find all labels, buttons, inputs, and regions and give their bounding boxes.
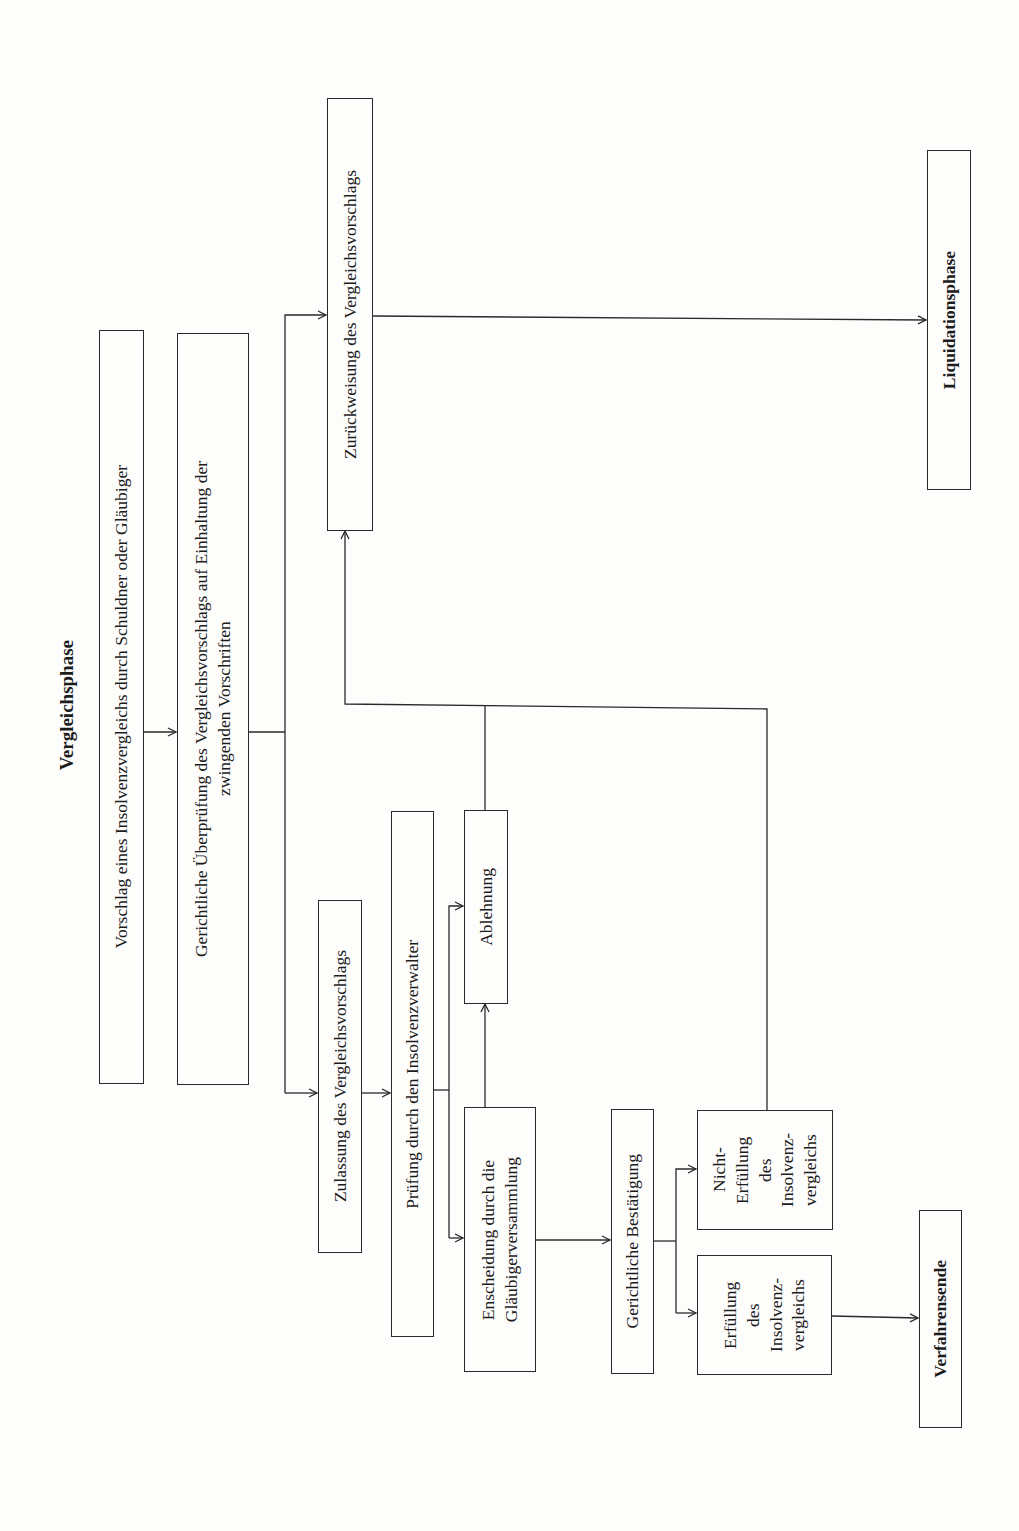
node-zurueckweisung: Zurückweisung des Vergleichsvorschlags bbox=[327, 98, 373, 531]
edge-bestaetigung-nichterfuellung bbox=[676, 1169, 696, 1313]
node-ueberpruefung: Gerichtliche Überprüfung des Vergleichsv… bbox=[177, 333, 249, 1085]
edge-erfuellung-verfahrensende bbox=[832, 1316, 918, 1318]
title-text: Vergleichsphase bbox=[55, 640, 80, 770]
node-label: Erfüllung des Insolvenz- vergleichs bbox=[719, 1278, 810, 1352]
node-verfahrensende: Verfahrensende bbox=[919, 1210, 962, 1428]
edge-zurueckweisung-liquidationsphase bbox=[373, 316, 926, 320]
node-label: Gerichtliche Überprüfung des Vergleichsv… bbox=[190, 461, 236, 957]
node-liquidationsphase: Liquidationsphase bbox=[927, 150, 971, 490]
node-label: Zulassung des Vergleichsvorschlags bbox=[329, 950, 352, 1202]
node-zulassung: Zulassung des Vergleichsvorschlags bbox=[318, 900, 362, 1253]
node-label: Prüfung durch den Insolvenzverwalter bbox=[401, 940, 424, 1209]
node-label: Gerichtliche Bestätigung bbox=[621, 1154, 644, 1328]
node-label: Vorschlag eines Insolvenzvergleichs durc… bbox=[110, 465, 133, 948]
node-bestaetigung: Gerichtliche Bestätigung bbox=[611, 1109, 654, 1374]
node-ablehnung: Ablehnung bbox=[464, 810, 508, 1004]
node-entscheidung: Enscheidung durch die Gläubigerversammlu… bbox=[464, 1107, 536, 1372]
edge-pruefung-ablehnung bbox=[449, 906, 463, 1238]
node-erfuellung: Erfüllung des Insolvenz- vergleichs bbox=[697, 1255, 832, 1375]
diagram-title: Vergleichsphase bbox=[52, 600, 82, 810]
node-label: Zurückweisung des Vergleichsvorschlags bbox=[339, 170, 362, 459]
node-pruefung: Prüfung durch den Insolvenzverwalter bbox=[391, 811, 434, 1337]
node-label: Enscheidung durch die Gläubigerversammlu… bbox=[477, 1157, 523, 1322]
node-label: Ablehnung bbox=[475, 868, 498, 946]
node-label: Verfahrensende bbox=[929, 1260, 952, 1378]
node-label: Liquidationsphase bbox=[938, 251, 961, 389]
node-label: Nicht- Erfüllung des Insolvenz- vergleic… bbox=[708, 1133, 822, 1207]
node-vorschlag: Vorschlag eines Insolvenzvergleichs durc… bbox=[99, 330, 144, 1084]
node-nicht-erfuellung: Nicht- Erfüllung des Insolvenz- vergleic… bbox=[697, 1110, 833, 1230]
